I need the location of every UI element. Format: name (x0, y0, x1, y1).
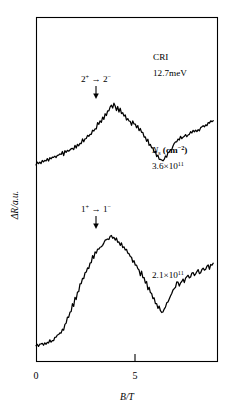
upper-transition-annotation: 2+ → 2− (81, 73, 111, 99)
upper-density-value: 3.6×1011 (152, 160, 184, 171)
lower-transition-label: 1+ → 1− (81, 203, 111, 214)
trace-upper-density (36, 103, 213, 165)
lower-transition-annotation: 1+ → 1− (81, 203, 111, 229)
lower-transition-to-sup: − (107, 203, 111, 210)
upper-transition-label: 2+ → 2− (81, 73, 111, 84)
upper-density-mantissa: 3.6×10 (152, 161, 178, 171)
xtick-label-5: 5 (133, 370, 138, 381)
lower-density-exponent: 11 (178, 269, 184, 276)
down-arrow-icon (93, 94, 99, 100)
xtick-label-0: 0 (34, 370, 39, 381)
sample-label: CRI (153, 52, 168, 62)
lower-transition-arrow: → (91, 204, 100, 214)
density-units-open: (cm (163, 145, 178, 155)
lower-density-mantissa: 2.1×10 (152, 270, 178, 280)
plot-frame (37, 18, 218, 362)
figure-container: 2+ → 2− 1+ → 1− CRI 12.7meV Ns (cm−2) 3.… (0, 0, 236, 420)
energy-label: 12.7meV (153, 68, 187, 78)
y-axis-label: ΔR/a.u. (9, 191, 20, 221)
down-arrow-icon-lower (93, 224, 99, 230)
trace-lower-density (36, 236, 213, 347)
density-units-exponent: −2 (178, 144, 185, 151)
upper-density-exponent: 11 (178, 160, 184, 167)
lower-density-value: 2.1×1011 (152, 269, 184, 280)
upper-transition-to-sup: − (107, 73, 111, 80)
x-axis-label: B/T (120, 391, 135, 402)
density-units-close: ) (184, 145, 187, 155)
density-header: Ns (cm−2) (151, 144, 187, 157)
upper-transition-arrow: → (91, 74, 100, 84)
chart-svg: 2+ → 2− 1+ → 1− CRI 12.7meV Ns (cm−2) 3.… (0, 0, 236, 420)
